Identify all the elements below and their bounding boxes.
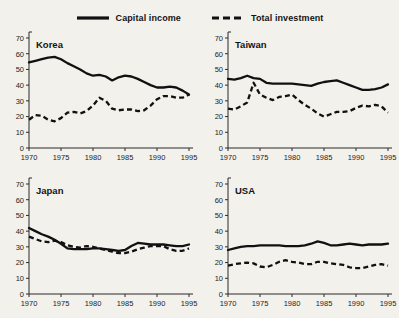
y-tick-label: 20 xyxy=(16,258,24,267)
x-tick-label: 1980 xyxy=(284,299,301,308)
y-tick-label: 60 xyxy=(215,196,223,205)
y-tick-label: 30 xyxy=(215,243,223,252)
series-line-total-investment xyxy=(29,95,189,122)
y-tick-label: 40 xyxy=(16,81,24,90)
x-tick-label: 1975 xyxy=(252,153,269,162)
legend-entry-capital-income: Capital income xyxy=(76,13,181,23)
y-tick-label: 10 xyxy=(215,274,223,283)
x-tick-label: 1995 xyxy=(181,299,198,308)
y-tick-label: 60 xyxy=(215,50,223,59)
y-tick-label: 40 xyxy=(215,227,223,236)
legend-label-capital-income: Capital income xyxy=(116,13,181,23)
y-tick-label: 60 xyxy=(16,196,24,205)
y-tick-label: 50 xyxy=(16,211,24,220)
x-tick-label: 1975 xyxy=(252,299,269,308)
panel-plot-korea: 010203040506070197019751980198519901995K… xyxy=(0,26,199,172)
y-tick-label: 60 xyxy=(16,50,24,59)
panel-title: Korea xyxy=(36,39,64,50)
y-tick-label: 10 xyxy=(16,274,24,283)
y-tick-label: 30 xyxy=(215,97,223,106)
x-tick-label: 1990 xyxy=(149,299,166,308)
x-tick-label: 1970 xyxy=(220,153,237,162)
x-tick-label: 1970 xyxy=(21,299,38,308)
panel-korea: 010203040506070197019751980198519901995K… xyxy=(0,26,199,172)
figure-container: Capital income Total investment 01020304… xyxy=(0,0,399,318)
y-tick-label: 0 xyxy=(219,290,223,299)
legend-entry-total-investment: Total investment xyxy=(211,13,323,23)
legend-label-total-investment: Total investment xyxy=(251,13,323,23)
panel-title: Japan xyxy=(36,185,64,196)
legend-swatch-dashed xyxy=(211,13,245,23)
panel-japan: 010203040506070197019751980198519901995J… xyxy=(0,172,199,318)
x-tick-label: 1990 xyxy=(149,153,166,162)
x-tick-label: 1980 xyxy=(284,153,301,162)
x-tick-label: 1985 xyxy=(316,299,333,308)
y-tick-label: 70 xyxy=(215,34,223,43)
legend-swatch-solid xyxy=(76,13,110,23)
x-tick-label: 1970 xyxy=(220,299,237,308)
y-tick-label: 0 xyxy=(20,144,24,153)
y-tick-label: 70 xyxy=(16,180,24,189)
x-tick-label: 1995 xyxy=(380,299,397,308)
y-tick-label: 30 xyxy=(16,243,24,252)
y-tick-label: 70 xyxy=(215,180,223,189)
panel-taiwan: 010203040506070197019751980198519901995T… xyxy=(199,26,398,172)
y-tick-label: 20 xyxy=(215,112,223,121)
y-tick-label: 50 xyxy=(215,211,223,220)
panel-title: Taiwan xyxy=(235,39,267,50)
y-tick-label: 20 xyxy=(16,112,24,121)
series-line-capital-income xyxy=(228,241,388,250)
y-tick-label: 50 xyxy=(215,65,223,74)
panel-plot-usa: 010203040506070197019751980198519901995U… xyxy=(199,172,398,318)
y-tick-label: 0 xyxy=(219,144,223,153)
x-tick-label: 1970 xyxy=(21,153,38,162)
x-tick-label: 1985 xyxy=(117,299,134,308)
series-line-total-investment xyxy=(228,83,388,117)
x-tick-label: 1985 xyxy=(316,153,333,162)
x-tick-label: 1995 xyxy=(181,153,198,162)
x-tick-label: 1975 xyxy=(53,299,70,308)
chart-legend: Capital income Total investment xyxy=(0,8,399,28)
x-tick-label: 1990 xyxy=(348,299,365,308)
panel-grid: 010203040506070197019751980198519901995K… xyxy=(0,26,399,318)
x-tick-label: 1975 xyxy=(53,153,70,162)
series-line-capital-income xyxy=(29,57,189,95)
x-tick-label: 1990 xyxy=(348,153,365,162)
x-tick-label: 1980 xyxy=(85,153,102,162)
y-tick-label: 70 xyxy=(16,34,24,43)
series-line-total-investment xyxy=(228,260,388,268)
y-tick-label: 40 xyxy=(16,227,24,236)
panel-plot-taiwan: 010203040506070197019751980198519901995T… xyxy=(199,26,398,172)
x-tick-label: 1980 xyxy=(85,299,102,308)
y-tick-label: 40 xyxy=(215,81,223,90)
y-tick-label: 20 xyxy=(215,258,223,267)
y-tick-label: 0 xyxy=(20,290,24,299)
y-tick-label: 10 xyxy=(215,128,223,137)
x-tick-label: 1985 xyxy=(117,153,134,162)
panel-usa: 010203040506070197019751980198519901995U… xyxy=(199,172,398,318)
y-tick-label: 30 xyxy=(16,97,24,106)
panel-title: USA xyxy=(235,185,255,196)
x-tick-label: 1995 xyxy=(380,153,397,162)
y-tick-label: 10 xyxy=(16,128,24,137)
panel-plot-japan: 010203040506070197019751980198519901995J… xyxy=(0,172,199,318)
y-tick-label: 50 xyxy=(16,65,24,74)
